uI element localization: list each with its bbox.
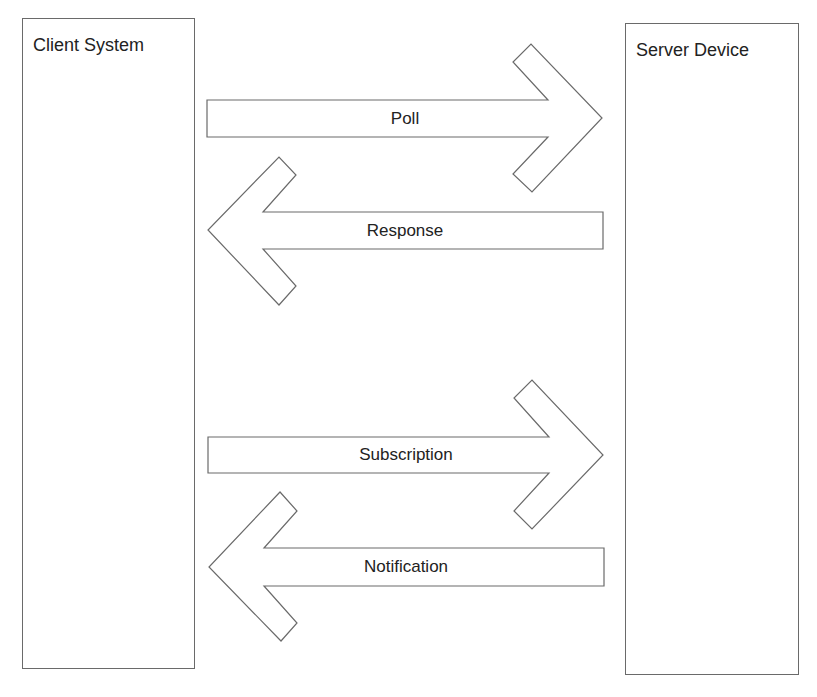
message-arrows [0, 0, 817, 697]
response-label: Response [367, 222, 444, 239]
notification-label: Notification [364, 558, 448, 575]
poll-label: Poll [391, 110, 419, 127]
subscription-label: Subscription [359, 446, 453, 463]
